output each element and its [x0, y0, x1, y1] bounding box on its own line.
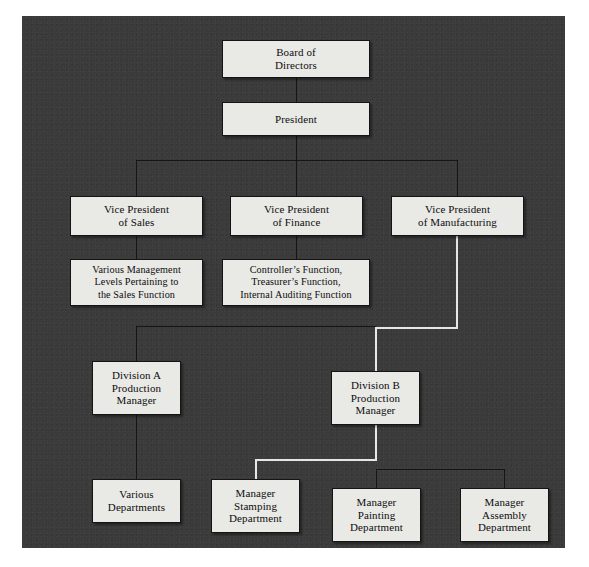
connector-division-b-bottom-drop [375, 425, 377, 460]
node-various-departments[interactable]: Various Departments [92, 479, 181, 523]
connector-president-drop [296, 136, 297, 160]
connector-bus-to-division-a [136, 326, 137, 361]
node-vp-sales[interactable]: Vice President of Sales [70, 196, 203, 236]
connector-bus-to-vp-finance [296, 160, 297, 196]
node-vp-finance-line1: Vice President [261, 203, 332, 216]
node-vp-sales-line1: Vice President [101, 203, 172, 216]
node-manager-painting-department[interactable]: Manager Painting Department [332, 488, 421, 542]
node-painting-line1: Manager [347, 496, 406, 509]
node-stamping-line2: Stamping [226, 500, 285, 513]
connector-division-b-drop [375, 327, 377, 371]
node-finance-functions-line2: Treasurer’s Function, [237, 276, 354, 288]
connector-vp-finance-to-functions [296, 236, 297, 259]
node-stamping-line1: Manager [226, 487, 285, 500]
node-board-line1: Board of [272, 46, 320, 59]
node-stamping-line3: Department [226, 512, 285, 525]
node-division-b-production-manager[interactable]: Division B Production Manager [331, 371, 420, 425]
connector-manufacturing-bus-horizontal [136, 326, 376, 327]
node-finance-functions-line3: Internal Auditing Function [237, 289, 354, 301]
node-vp-manufacturing-line1: Vice President [415, 203, 500, 216]
node-vp-manufacturing-line2: of Manufacturing [415, 216, 500, 229]
node-sales-management-levels[interactable]: Various Management Levels Pertaining to … [70, 259, 203, 306]
connector-vp-manufacturing-drop [456, 236, 458, 328]
node-vp-manufacturing[interactable]: Vice President of Manufacturing [391, 196, 524, 236]
node-vp-finance[interactable]: Vice President of Finance [230, 196, 363, 236]
node-sales-levels-line2: Levels Pertaining to [89, 276, 184, 288]
connector-bus-to-painting [376, 469, 377, 488]
node-assembly-line2: Assembly [475, 509, 534, 522]
node-assembly-line1: Manager [475, 496, 534, 509]
connector-board-to-president [296, 78, 297, 102]
node-sales-levels-line3: the Sales Function [89, 289, 184, 301]
node-manager-assembly-department[interactable]: Manager Assembly Department [460, 488, 549, 542]
node-president[interactable]: President [222, 102, 370, 136]
node-division-a-line2: Production [109, 382, 164, 395]
org-chart-root: Board of Directors President Vice Presid… [0, 0, 589, 567]
node-division-b-line1: Division B [348, 379, 403, 392]
connector-division-b-department-bus [376, 469, 504, 470]
node-board-line2: Directors [272, 59, 320, 72]
node-division-b-line2: Production [348, 392, 403, 405]
connector-bus-to-vp-manufacturing [457, 160, 458, 196]
node-painting-line3: Department [347, 521, 406, 534]
node-vp-sales-line2: of Sales [101, 216, 172, 229]
connector-bus-to-vp-sales [136, 160, 137, 196]
connector-vp-sales-to-levels [136, 236, 137, 259]
connector-division-b-to-stamping-horizontal [255, 459, 377, 461]
node-finance-functions[interactable]: Controller’s Function, Treasurer’s Funct… [222, 259, 370, 306]
connector-vp-bus [136, 160, 457, 161]
node-division-a-production-manager[interactable]: Division A Production Manager [92, 361, 181, 415]
connector-manufacturing-to-division-b-horizontal [375, 327, 458, 329]
node-manager-stamping-department[interactable]: Manager Stamping Department [211, 479, 300, 533]
node-finance-functions-line1: Controller’s Function, [237, 264, 354, 276]
node-various-departments-line1: Various [105, 488, 168, 501]
node-assembly-line3: Department [475, 521, 534, 534]
node-board-of-directors[interactable]: Board of Directors [222, 40, 370, 78]
node-vp-finance-line2: of Finance [261, 216, 332, 229]
node-painting-line2: Painting [347, 509, 406, 522]
node-sales-levels-line1: Various Management [89, 264, 184, 276]
node-division-a-line3: Manager [109, 394, 164, 407]
node-various-departments-line2: Departments [105, 501, 168, 514]
connector-bus-to-assembly [504, 469, 505, 488]
node-division-a-line1: Division A [109, 369, 164, 382]
connector-stamping-drop [255, 459, 257, 479]
node-division-b-line3: Manager [348, 404, 403, 417]
node-president-line1: President [272, 113, 320, 126]
chart-panel-background: Board of Directors President Vice Presid… [22, 16, 565, 548]
connector-division-a-to-departments [136, 415, 137, 479]
